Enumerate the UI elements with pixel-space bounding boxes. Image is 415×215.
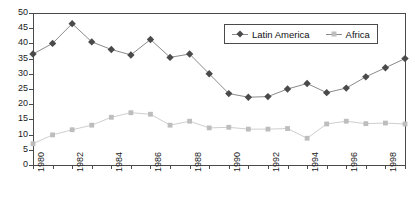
data-point-square [187, 119, 192, 124]
data-point-square [168, 123, 173, 128]
data-point-diamond [323, 89, 330, 96]
data-point-diamond [284, 85, 291, 92]
data-point-diamond [303, 80, 310, 87]
data-point-square [344, 119, 349, 124]
legend-item-africa: Africa [326, 29, 370, 40]
data-point-diamond [343, 84, 350, 91]
data-point-square [89, 123, 94, 128]
data-point-diamond [29, 50, 36, 57]
data-point-square [31, 141, 36, 146]
series-line [33, 113, 405, 144]
line-chart: 05101520253035404550 1980198219841986198… [0, 0, 415, 215]
legend-marker-square-icon [326, 34, 342, 35]
data-point-square [128, 110, 133, 115]
data-point-diamond [245, 94, 252, 101]
data-point-square [109, 115, 114, 120]
data-point-square [50, 133, 55, 138]
data-point-diamond [382, 64, 389, 71]
data-point-square [246, 127, 251, 132]
data-point-square [285, 126, 290, 131]
data-point-diamond [362, 73, 369, 80]
data-point-square [383, 121, 388, 126]
data-point-square [403, 122, 408, 127]
data-point-diamond [108, 46, 115, 53]
data-point-diamond [264, 93, 271, 100]
chart-legend: Latin America Africa [224, 24, 378, 44]
legend-item-latin-america: Latin America [232, 29, 310, 40]
legend-label-africa: Africa [346, 29, 370, 40]
data-point-square [148, 112, 153, 117]
data-point-square [324, 122, 329, 127]
data-point-diamond [401, 55, 408, 62]
data-point-square [305, 136, 310, 141]
series-africa [31, 110, 408, 146]
legend-marker-diamond-icon [232, 34, 248, 35]
data-point-square [207, 126, 212, 131]
data-point-square [266, 127, 271, 132]
legend-label-latin-america: Latin America [252, 29, 310, 40]
data-point-square [70, 127, 75, 132]
data-point-square [226, 125, 231, 130]
data-point-square [363, 121, 368, 126]
